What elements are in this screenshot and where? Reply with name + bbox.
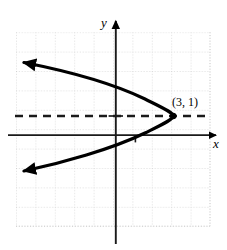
coordinate-plane (0, 0, 227, 250)
grid (16, 32, 210, 226)
graph-figure: y x (3, 1) (0, 0, 227, 250)
vertex-point-label: (3, 1) (172, 96, 198, 108)
y-axis-label: y (101, 16, 107, 29)
vertex-point-marker (170, 113, 176, 119)
x-axis-label: x (213, 137, 219, 150)
